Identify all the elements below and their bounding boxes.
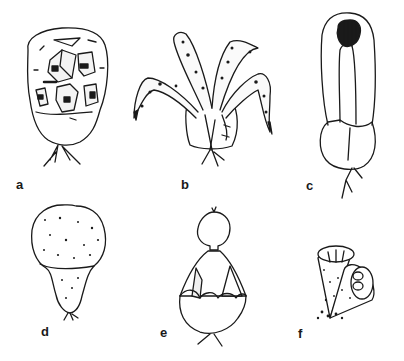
panel-label-a: a — [16, 178, 23, 191]
panel-a-drawing — [28, 28, 108, 166]
panel-d-drawing — [32, 205, 106, 320]
panel-f-drawing — [317, 246, 374, 319]
specimen-illustration — [0, 0, 404, 361]
panel-c-drawing — [320, 13, 375, 198]
panel-e-drawing — [180, 207, 246, 346]
panel-label-c: c — [306, 179, 313, 192]
panel-label-d: d — [41, 325, 49, 338]
panel-label-b: b — [181, 178, 189, 191]
panel-b-drawing — [134, 32, 272, 166]
panel-label-f: f — [298, 327, 302, 340]
panel-label-e: e — [160, 326, 167, 339]
